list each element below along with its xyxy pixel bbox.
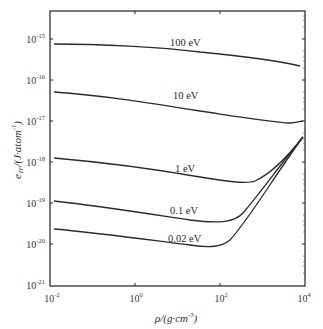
label-10ev: 10 eV <box>173 90 199 101</box>
label-002ev: 0.02 eV <box>168 233 202 244</box>
svg-text:10-21: 10-21 <box>26 278 45 291</box>
svg-text:10-19: 10-19 <box>26 196 45 209</box>
y-axis-title: eTF/(J·atom-1) <box>10 121 24 179</box>
chart: 10-15 10-16 10-17 10-18 10-19 10-20 10-2… <box>0 0 323 329</box>
svg-text:10-17: 10-17 <box>26 114 45 127</box>
svg-text:10-18: 10-18 <box>26 155 45 168</box>
svg-text:102: 102 <box>214 291 227 304</box>
label-01ev: 0.1 eV <box>170 205 198 216</box>
curve-1ev <box>54 137 303 182</box>
svg-text:10-16: 10-16 <box>26 73 45 86</box>
svg-text:100: 100 <box>129 291 142 304</box>
plot-frame <box>50 11 305 286</box>
label-1ev: 1 eV <box>175 163 196 174</box>
svg-text:10-2: 10-2 <box>44 291 59 304</box>
svg-text:10-15: 10-15 <box>26 32 45 45</box>
label-100ev: 100 eV <box>170 37 201 48</box>
svg-text:10-20: 10-20 <box>26 237 45 250</box>
svg-text:104: 104 <box>297 291 311 304</box>
x-axis-title: ρ/(g·cm-3) <box>154 311 198 325</box>
x-tick-labels: 10-2 100 102 104 <box>44 291 311 304</box>
curve-002ev <box>54 137 303 247</box>
y-tick-labels: 10-15 10-16 10-17 10-18 10-19 10-20 10-2… <box>26 32 45 291</box>
